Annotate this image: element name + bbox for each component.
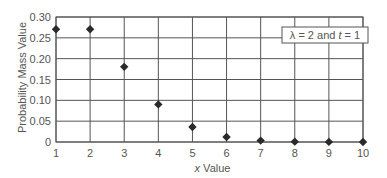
legend-label: λ = 2 and t = 1 — [290, 29, 360, 41]
y-tick-label: 0.25 — [30, 32, 51, 44]
x-tick-label: 2 — [87, 147, 93, 159]
y-tick-label: 0.05 — [30, 115, 51, 127]
y-tick-label: 0.20 — [30, 53, 51, 65]
y-tick-label: 0.30 — [30, 11, 51, 23]
x-tick-label: 5 — [189, 147, 195, 159]
x-tick-label: 4 — [155, 147, 161, 159]
x-tick-label: 3 — [121, 147, 127, 159]
x-tick-label: 8 — [292, 147, 298, 159]
y-tick-label: 0.15 — [30, 74, 51, 86]
x-tick-label: 9 — [326, 147, 332, 159]
y-axis-label: Probability Mass Value — [16, 22, 28, 133]
y-tick-label: 0 — [45, 136, 51, 148]
x-axis-label: x Value — [194, 162, 231, 174]
x-tick-label: 6 — [223, 147, 229, 159]
x-tick-label: 10 — [357, 147, 369, 159]
pmf-chart: 00.050.100.150.200.250.3012345678910x Va… — [0, 0, 387, 178]
y-tick-label: 0.10 — [30, 94, 51, 106]
x-tick-label: 7 — [258, 147, 264, 159]
x-tick-label: 1 — [53, 147, 59, 159]
